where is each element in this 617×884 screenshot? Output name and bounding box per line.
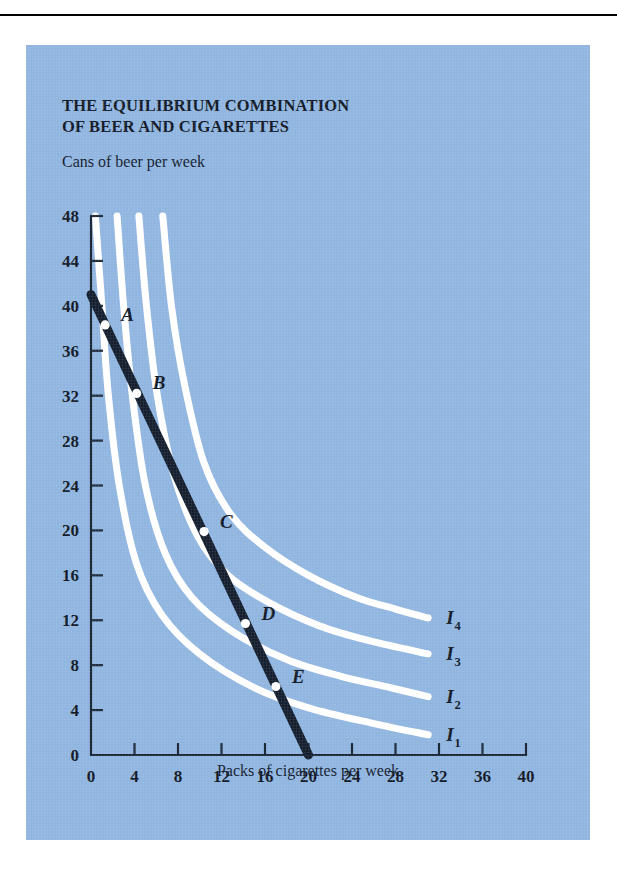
x-tick-label-8: 8 [174, 767, 183, 786]
x-tick-label-4: 4 [130, 767, 139, 786]
point-label-D: D [260, 603, 275, 624]
x-tick-label-16: 16 [257, 767, 274, 786]
point-label-E: E [291, 666, 305, 687]
x-tick-label-36: 36 [474, 767, 491, 786]
x-tick-label-24: 24 [344, 767, 362, 786]
y-tick-label-48: 48 [62, 207, 79, 226]
indifference-curve-I4 [163, 216, 428, 618]
x-tick-label-0: 0 [87, 767, 96, 786]
y-tick-label-28: 28 [62, 432, 79, 451]
y-tick-label-36: 36 [62, 342, 79, 361]
y-tick-label-24: 24 [62, 477, 80, 496]
y-tick-label-12: 12 [62, 611, 79, 630]
curve-label-subscript-I3: 3 [455, 655, 461, 669]
x-tick-label-32: 32 [431, 767, 448, 786]
y-tick-label-0: 0 [71, 746, 80, 765]
curve-label-I2: I2 [445, 686, 461, 712]
point-marker-D [241, 619, 250, 628]
curve-label-I3: I3 [445, 643, 461, 669]
point-label-B: B [152, 372, 166, 393]
curve-label-I4: I4 [445, 607, 461, 633]
curve-label-subscript-I1: 1 [455, 736, 461, 750]
y-tick-label-8: 8 [71, 656, 80, 675]
x-tick-label-20: 20 [300, 767, 317, 786]
y-tick-label-44: 44 [62, 252, 80, 271]
point-marker-C [200, 527, 209, 536]
top-rule [0, 14, 617, 16]
point-marker-E [271, 682, 280, 691]
curve-label-subscript-I4: 4 [455, 619, 462, 633]
curve-label-subscript-I2: 2 [455, 698, 461, 712]
chart-axes [91, 216, 526, 755]
point-marker-A [101, 320, 110, 329]
x-tick-label-12: 12 [213, 767, 230, 786]
point-label-A: A [120, 304, 134, 325]
y-tick-label-40: 40 [62, 297, 79, 316]
x-tick-label-28: 28 [387, 767, 404, 786]
y-tick-label-4: 4 [71, 701, 80, 720]
y-tick-label-16: 16 [62, 566, 79, 585]
y-tick-label-20: 20 [62, 521, 79, 540]
y-tick-label-32: 32 [62, 387, 79, 406]
curve-label-I1: I1 [445, 724, 461, 750]
figure-panel: THE EQUILIBRIUM COMBINATION OF BEER AND … [26, 45, 590, 840]
point-label-C: C [220, 511, 233, 532]
x-tick-label-40: 40 [518, 767, 535, 786]
chart-plot-area: 0481216202428323640444804812162024283236… [26, 45, 590, 840]
point-marker-B [132, 389, 141, 398]
